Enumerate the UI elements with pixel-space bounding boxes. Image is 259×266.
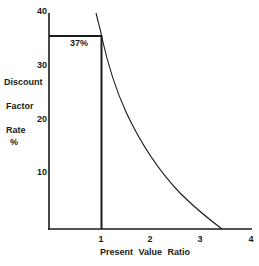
y-tick-40: 40 xyxy=(37,6,47,16)
x-tick-2: 2 xyxy=(147,234,152,244)
y-tick-10: 10 xyxy=(37,167,47,177)
y-label-factor: Factor xyxy=(6,101,34,111)
y-label-percent: % xyxy=(10,137,18,147)
x-tick-1: 1 xyxy=(98,234,103,244)
y-label-rate: Rate xyxy=(6,125,26,135)
y-tick-30: 30 xyxy=(37,60,47,70)
discount-rate-chart: 40 30 20 10 Discount Factor Rate % 1 2 3… xyxy=(0,0,259,266)
rate-annotation: 37% xyxy=(70,38,88,48)
y-label-discount: Discount xyxy=(4,77,43,87)
y-tick-20: 20 xyxy=(37,114,47,124)
x-tick-3: 3 xyxy=(197,234,202,244)
discount-curve xyxy=(96,13,222,229)
x-tick-4: 4 xyxy=(248,234,253,244)
x-axis-label: Present Value Ratio xyxy=(100,247,191,257)
